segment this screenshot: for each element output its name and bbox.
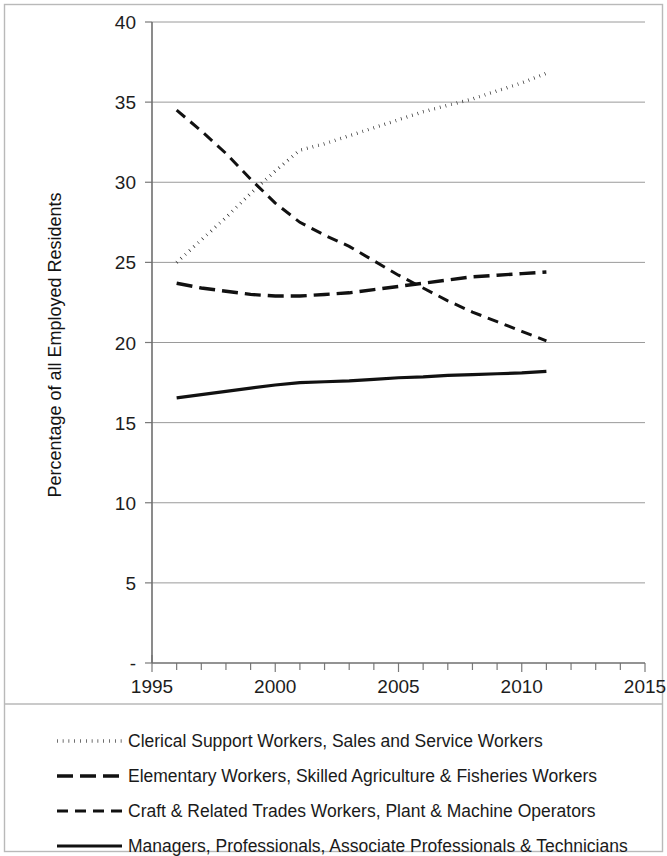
legend-label-3: Craft & Related Trades Workers, Plant & …: [128, 801, 596, 821]
y-tick-label: 40: [115, 12, 136, 33]
legend-label-2: Elementary Workers, Skilled Agriculture …: [128, 766, 597, 786]
y-axis-title: Percentage of all Employed Residents: [45, 192, 65, 497]
x-tick-label: 1995: [131, 676, 173, 697]
x-tick-label: 2005: [377, 676, 419, 697]
y-tick-label: 30: [115, 172, 136, 193]
y-tick-label: 35: [115, 92, 136, 113]
legend-label-1: Clerical Support Workers, Sales and Serv…: [128, 731, 543, 751]
line-chart-figure: -510152025303540 19952000200520102015 Pe…: [0, 0, 667, 856]
y-tick-label: 25: [115, 252, 136, 273]
chart-background: [0, 0, 667, 856]
legend-label-4: Managers, Professionals, Associate Profe…: [128, 836, 628, 856]
y-tick-label: 5: [125, 573, 136, 594]
x-tick-label: 2015: [624, 676, 666, 697]
y-tick-label: -: [130, 653, 136, 674]
x-tick-label: 2000: [254, 676, 296, 697]
y-tick-label: 20: [115, 333, 136, 354]
y-tick-label: 15: [115, 413, 136, 434]
x-tick-label: 2010: [501, 676, 543, 697]
y-tick-label: 10: [115, 493, 136, 514]
y-axis-title-text: Percentage of all Employed Residents: [45, 192, 65, 497]
